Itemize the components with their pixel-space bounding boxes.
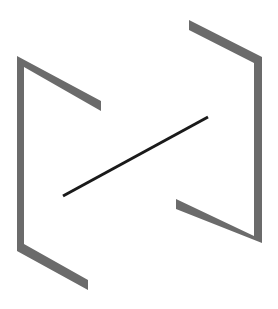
diagonal-line <box>63 117 208 196</box>
icon-canvas <box>0 0 278 309</box>
left-bracket-shape <box>17 56 101 290</box>
bracket-line-icon <box>0 0 278 309</box>
right-bracket-shape <box>176 20 262 243</box>
